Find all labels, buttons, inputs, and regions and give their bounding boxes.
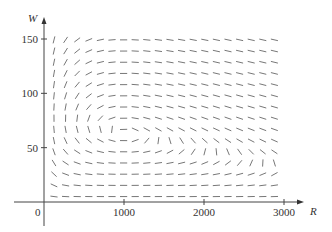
slope-segment (51, 184, 58, 187)
slope-segment (201, 84, 208, 86)
slope-segment (201, 61, 208, 63)
slope-segment (53, 48, 55, 55)
slope-segment (64, 70, 67, 76)
slope-segment (190, 174, 197, 175)
slope-segment (179, 149, 185, 154)
slope-segment (53, 70, 54, 77)
slope-segment (259, 39, 266, 41)
slope-segment (225, 95, 232, 97)
y-tick-label: 100 (22, 87, 39, 99)
slope-segment (63, 149, 68, 154)
direction-field-chart: 10002000300050100150 R W 0 (0, 0, 332, 232)
axis-ticks: 10002000300050100150 (22, 33, 296, 218)
slope-segment (144, 138, 149, 143)
slope-segment (86, 61, 93, 64)
slope-segment (224, 61, 231, 63)
slope-segment (227, 148, 230, 155)
x-tick-label: 2000 (193, 206, 216, 218)
slope-segment (166, 73, 173, 74)
slope-segment (166, 174, 173, 175)
slope-segment (259, 84, 266, 86)
slope-segment (86, 94, 92, 98)
slope-segment (213, 117, 220, 119)
slope-segment (178, 39, 185, 40)
slope-segment (132, 118, 139, 119)
slope-segment (86, 104, 91, 109)
slope-segment (166, 162, 173, 163)
slope-segment (201, 106, 208, 108)
slope-segment (76, 104, 79, 111)
origin-label: 0 (35, 206, 41, 218)
slope-segment (190, 39, 197, 40)
slope-segment (97, 151, 104, 153)
slope-segment (236, 95, 243, 97)
slope-segment (155, 106, 162, 108)
slope-segment (53, 36, 55, 43)
slope-segment (54, 126, 55, 133)
slope-segment (213, 50, 220, 52)
slope-segment (155, 151, 162, 153)
slope-segment (213, 39, 220, 40)
slope-segment (248, 39, 255, 41)
slope-segment (204, 148, 206, 155)
slope-segment (248, 185, 255, 186)
slope-segment (98, 116, 103, 121)
slope-segment (202, 128, 208, 131)
slope-segment (97, 95, 104, 98)
slope-segment (75, 138, 79, 144)
y-axis-arrow-icon (42, 17, 47, 24)
slope-segment (213, 106, 220, 108)
slope-segment (259, 173, 266, 176)
slope-segment (271, 73, 278, 75)
slope-segment (248, 117, 255, 119)
slope-segment (100, 126, 102, 133)
slope-segment (225, 106, 232, 108)
slope-segment (143, 73, 150, 74)
slope-segment (64, 137, 67, 144)
slope-segment (271, 95, 278, 97)
y-tick-label: 50 (27, 142, 39, 154)
slope-segment (190, 117, 197, 119)
slope-segment (202, 138, 207, 143)
slope-segment (213, 73, 220, 75)
slope-segment (53, 59, 54, 66)
slope-segment (201, 50, 208, 51)
slope-segment (155, 51, 162, 52)
slope-segment (97, 39, 104, 40)
slope-segment (190, 50, 197, 51)
slope-segment (74, 162, 81, 164)
slope-segment (236, 39, 243, 41)
slope-segment (108, 40, 115, 41)
slope-segment (213, 174, 220, 175)
slope-segment (109, 140, 116, 142)
slope-segments (50, 36, 278, 197)
slope-segment (271, 172, 277, 175)
slope-segment (64, 37, 68, 43)
slope-segment (155, 84, 162, 85)
slope-segment (132, 84, 139, 85)
slope-segment (64, 48, 68, 54)
slope-segment (236, 117, 243, 119)
slope-segment (271, 84, 278, 86)
slope-segment (144, 128, 150, 131)
slope-segment (259, 185, 266, 186)
slope-segment (236, 106, 243, 108)
slope-segment (201, 39, 208, 40)
slope-segment (54, 92, 55, 99)
slope-segment (143, 163, 150, 164)
slope-segment (132, 73, 139, 74)
slope-segment (236, 139, 242, 143)
slope-segment (248, 61, 255, 63)
slope-segment (236, 61, 243, 63)
slope-segment (166, 62, 173, 63)
slope-segment (85, 174, 92, 175)
slope-segment (155, 95, 162, 96)
slope-segment (97, 163, 104, 164)
x-axis-label: R (309, 205, 317, 217)
slope-segment (213, 61, 220, 63)
slope-segment (178, 106, 185, 108)
slope-segment (213, 84, 220, 86)
slope-segment (53, 148, 55, 155)
slope-segment (143, 106, 150, 107)
slope-segment (178, 95, 185, 97)
